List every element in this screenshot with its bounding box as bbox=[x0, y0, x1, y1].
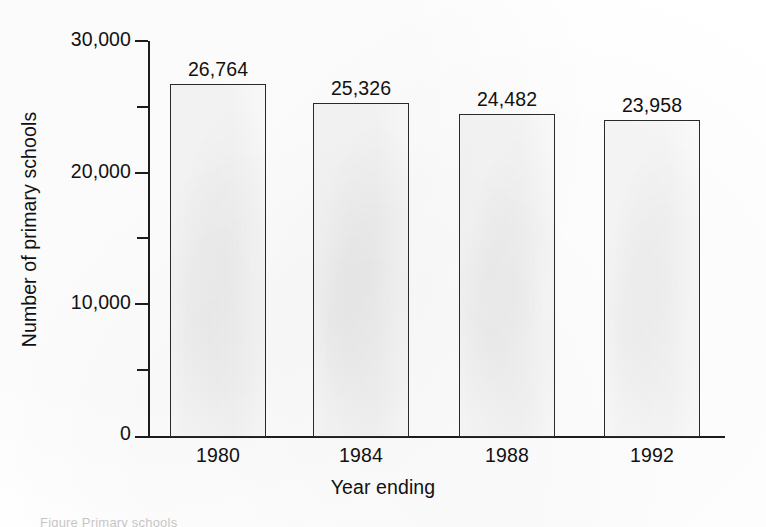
y-tick-30000 bbox=[135, 40, 148, 42]
bar-value-1992: 23,958 bbox=[592, 94, 712, 117]
bar-1992[interactable] bbox=[604, 120, 700, 437]
bar-value-1980: 26,764 bbox=[158, 58, 278, 81]
y-axis-line bbox=[148, 41, 150, 437]
y-tick-10000 bbox=[135, 303, 148, 305]
y-tick-label-20000: 20,000 bbox=[71, 160, 131, 183]
bar-1980[interactable] bbox=[170, 84, 266, 437]
y-tick-25000 bbox=[137, 106, 148, 108]
x-tick-label-1992: 1992 bbox=[592, 444, 712, 467]
x-tick-label-1988: 1988 bbox=[447, 444, 567, 467]
y-tick-15000 bbox=[137, 237, 148, 239]
figure-page: 30,000 20,000 10,000 0 Number of primary… bbox=[0, 0, 766, 527]
x-tick-label-1980: 1980 bbox=[158, 444, 278, 467]
bar-1988[interactable] bbox=[459, 114, 555, 437]
figure-caption: Figure Primary schools bbox=[40, 515, 740, 527]
y-tick-label-10000: 10,000 bbox=[71, 291, 131, 314]
x-tick-label-1984: 1984 bbox=[301, 444, 421, 467]
bar-value-1988: 24,482 bbox=[447, 88, 567, 111]
x-axis-title: Year ending bbox=[0, 476, 766, 499]
bar-chart: 30,000 20,000 10,000 0 Number of primary… bbox=[0, 0, 766, 527]
y-tick-label-30000: 30,000 bbox=[71, 28, 131, 51]
bar-1984[interactable] bbox=[313, 103, 409, 437]
y-tick-5000 bbox=[137, 369, 148, 371]
bar-value-1984: 25,326 bbox=[301, 77, 421, 100]
y-axis-title: Number of primary schools bbox=[18, 80, 41, 380]
y-tick-20000 bbox=[135, 172, 148, 174]
y-tick-label-0: 0 bbox=[120, 422, 131, 445]
